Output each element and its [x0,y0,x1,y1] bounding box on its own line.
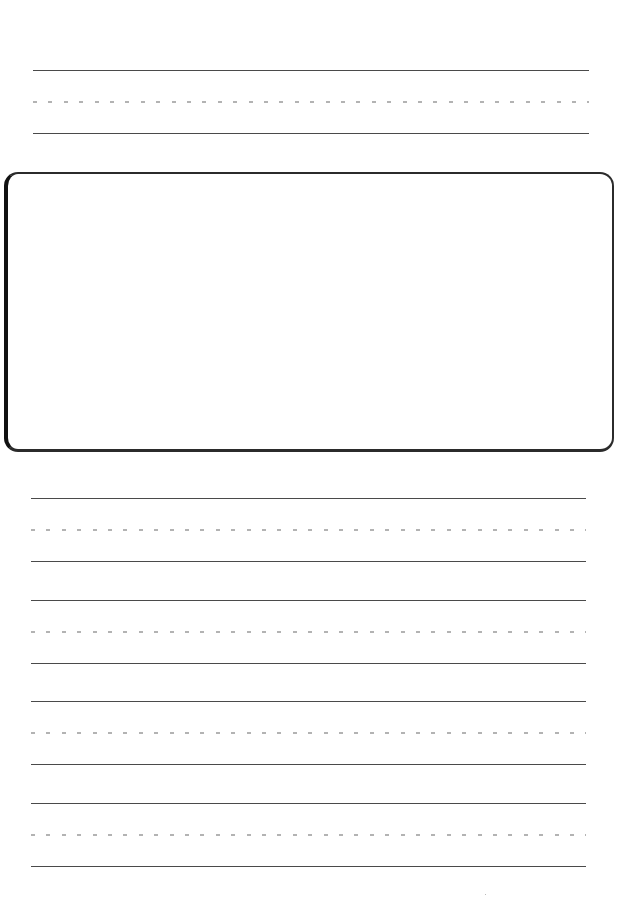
writing-lines-3 [31,701,586,765]
baseline-solid [31,663,586,664]
baseline-solid [31,764,586,765]
writing-lines-2 [31,600,586,664]
top-solid-line [31,701,586,702]
baseline-solid [31,561,586,562]
midline-dashed [31,529,586,531]
top-solid-line [31,498,586,499]
top-solid-line [33,70,589,71]
scan-speck [485,894,486,895]
top-solid-line [31,600,586,601]
midline-dashed [31,834,586,836]
drawing-box[interactable] [4,172,614,452]
baseline-solid [31,866,586,867]
midline-dashed [31,732,586,734]
baseline-solid [33,133,589,134]
title-writing-lines [33,70,589,134]
writing-lines-4 [31,803,586,867]
top-solid-line [31,803,586,804]
midline-dashed [31,631,586,633]
writing-lines-1 [31,498,586,562]
midline-dashed [33,101,589,103]
